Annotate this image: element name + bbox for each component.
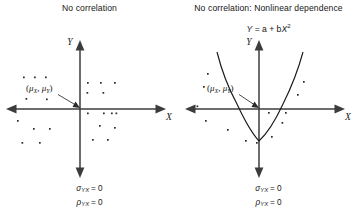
panel-no-correlation: No correlation Y X [0,0,179,224]
panel-nonlinear-dependence: No correlation: Nonlinear dependence Y =… [179,0,358,224]
equation-relation: = a + b [252,24,281,34]
x-axis-label-right: X [344,112,352,122]
y-axis-arrow-up-left [76,40,85,51]
x-axis-arrow-left-left [6,105,17,114]
sigma-subscript-left: YX [81,187,89,193]
sigma-value-right: = 0 [270,184,282,193]
y-axis-label-right: Y [246,37,253,47]
x-axis-arrow-right-right [335,105,346,114]
panel-equation-right: Y = a + bX2 [179,21,358,35]
y-axis-arrow-down-left [76,168,85,179]
sigma-stat-right: σYX = 0 [179,183,358,197]
scatter-plot-left: Y X [0,36,179,181]
mean-pointer-line-left [58,95,77,106]
mean-pointer-arrow-right [252,102,260,109]
mean-pointer-arrow-left [73,102,81,109]
mean-label-left: (μX, μY) [26,83,53,94]
rho-value-right: = 0 [270,198,282,207]
y-axis-label-left: Y [67,37,74,47]
mean-label-right: (μX, μY) [207,83,234,94]
stats-block-left: σYX = 0 ρYX = 0 [0,183,179,211]
y-axis-arrow-up-right [255,40,264,51]
equation-exponent: 2 [287,23,290,29]
rho-subscript-right: YX [260,201,268,207]
figure-canvas: No correlation Y X [0,0,358,224]
rho-subscript-left: YX [81,201,89,207]
rho-stat-left: ρYX = 0 [0,197,179,211]
x-axis-arrow-left-right [185,105,196,114]
sigma-subscript-right: YX [260,187,268,193]
stats-block-right: σYX = 0 ρYX = 0 [179,183,358,211]
panel-title-left: No correlation [0,3,179,14]
mean-pointer-line-right [239,95,256,106]
rho-stat-right: ρYX = 0 [179,197,358,211]
scatter-plot-right: Y X [179,36,358,181]
x-axis-label-left: X [165,112,173,122]
rho-value-left: = 0 [91,198,103,207]
sigma-value-left: = 0 [91,184,103,193]
x-axis-arrow-right-left [156,105,167,114]
y-axis-arrow-down-right [255,168,264,179]
parabola-curve [217,52,303,141]
sigma-stat-left: σYX = 0 [0,183,179,197]
panel-title-right: No correlation: Nonlinear dependence [179,3,358,14]
